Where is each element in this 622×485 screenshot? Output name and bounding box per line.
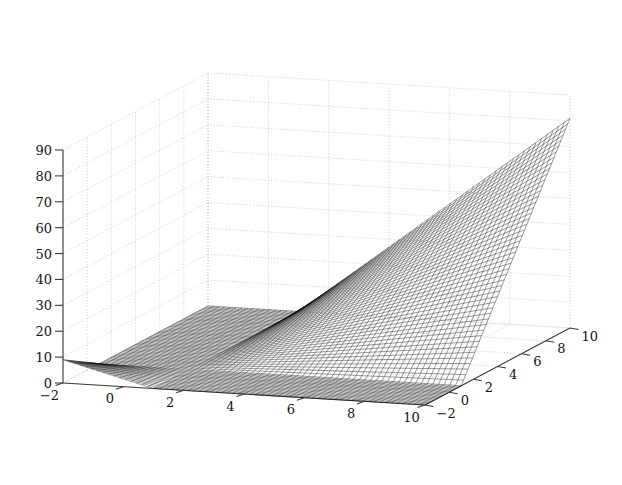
mesh-line-u (206, 124, 568, 313)
x-tick-mark (176, 390, 184, 393)
mesh-line-u (174, 202, 536, 330)
x-tick-label: 6 (287, 402, 295, 417)
y-tick-label: 6 (533, 354, 541, 369)
mesh-line-u (142, 280, 504, 347)
grid-line-wall-x-horizontal (63, 228, 208, 305)
y-tick-mark (473, 379, 482, 381)
x-tick-mark (418, 405, 426, 408)
y-tick-label: −2 (437, 406, 456, 421)
z-tick-label: 80 (35, 169, 52, 184)
y-tick-label: 4 (509, 367, 517, 382)
y-tick-label: 2 (485, 380, 493, 395)
x-tick-label: 2 (166, 395, 174, 410)
grid-line-wall-y-horizontal (208, 125, 570, 147)
x-tick-mark (357, 401, 365, 404)
mesh-line-u (194, 152, 556, 319)
z-tick-label: 20 (35, 324, 52, 339)
grid-line-wall-x-horizontal (63, 280, 208, 357)
x-tick-label: 4 (226, 399, 234, 414)
z-tick-label: 40 (35, 272, 52, 287)
y-tick-mark (570, 328, 579, 330)
z-tick-label: 10 (35, 350, 52, 365)
grid-line-wall-x-horizontal (63, 125, 208, 202)
y-tick-mark (546, 341, 555, 343)
z-tick-label: 50 (35, 247, 52, 262)
y-tick-mark (449, 392, 458, 394)
x-tick-mark (116, 387, 124, 390)
x-tick-mark (237, 394, 245, 397)
z-tick-label: 60 (35, 221, 52, 236)
z-tick-label: 30 (35, 298, 52, 313)
y-tick-mark (522, 354, 531, 356)
grid-line-wall-x-horizontal (63, 202, 208, 279)
grid-line-wall-x-horizontal (63, 73, 208, 150)
grid-line-wall-x-horizontal (63, 151, 208, 228)
x-tick-label: 10 (403, 410, 420, 425)
mesh-line-u (169, 213, 531, 332)
y-tick-mark (425, 405, 434, 407)
y-tick-label: 10 (582, 329, 599, 344)
z-tick-label: 0 (44, 376, 52, 391)
x-tick-mark (297, 398, 305, 401)
mesh-line-u (190, 163, 552, 321)
y-tick-mark (498, 367, 507, 369)
z-tick-label: 90 (35, 143, 52, 158)
figure-3d-mesh-plot: −20246810−202468100102030405060708090 (0, 0, 622, 485)
plot-canvas: −20246810−202468100102030405060708090 (0, 0, 622, 485)
mesh-line-u (203, 129, 565, 313)
mesh-line-u (201, 135, 563, 315)
x-tick-label: 0 (106, 391, 114, 406)
y-tick-label: 8 (557, 341, 565, 356)
surface-mesh-group (63, 118, 570, 405)
x-tick-label: 8 (347, 406, 355, 421)
z-tick-label: 70 (35, 195, 52, 210)
y-tick-label: 0 (461, 393, 469, 408)
